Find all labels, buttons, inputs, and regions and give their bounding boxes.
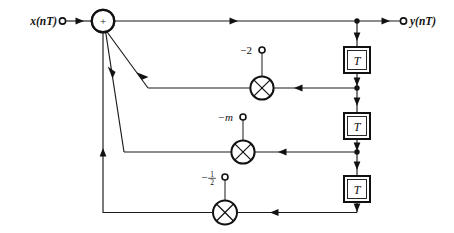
signal-flow-diagram: T T: [0, 0, 454, 233]
diagram-canvas: T T: [0, 0, 454, 233]
output-terminal-circle: [400, 18, 406, 24]
forward-rail-arrowhead: [230, 18, 239, 25]
delay-block-3: T: [344, 176, 370, 202]
multiplier-3-coef-numerator: 1: [210, 170, 214, 179]
delay-block-2: T: [344, 113, 370, 139]
multiplier-3: [213, 201, 237, 225]
multiplier-2: [231, 140, 254, 163]
forward-path: [114, 18, 406, 25]
input-terminal-circle: [59, 18, 65, 24]
branch-2-arrowhead: [278, 149, 287, 156]
branch-1-diagonal-arrowhead: [137, 72, 149, 80]
delay-chain-arrow-2: [354, 78, 361, 87]
delay-chain-arrow-5: [354, 162, 361, 171]
coefficient-branch-2: −m: [106, 31, 358, 164]
branch-3-arrowhead: [270, 209, 279, 216]
multiplier-3-coef-terminal: [222, 174, 228, 180]
multiplier-3-coef-label: − 1 2: [201, 170, 216, 188]
input-branch: [59, 18, 92, 25]
multiplier-1-coef-terminal: [259, 47, 265, 53]
output-signal-label: y(nT): [408, 15, 436, 28]
branch-1-arrowhead: [294, 85, 303, 92]
multiplier-3-coef-denominator: 2: [210, 178, 214, 187]
branch-2-diagonal: [106, 31, 125, 152]
summer-plus-symbol: +: [92, 10, 114, 32]
delay-chain: T T: [344, 21, 370, 213]
multiplier-1-coef-label: −2: [240, 44, 252, 56]
coefficient-branch-3: − 1 2: [100, 33, 357, 225]
delay-block-1: T: [344, 47, 370, 73]
output-arrowhead: [382, 18, 391, 25]
input-arrowhead: [76, 18, 85, 25]
summer-plus-label: +: [100, 15, 106, 27]
delay-chain-arrow-1: [354, 33, 361, 42]
coefficient-branch-1: −2: [106, 31, 357, 100]
branch-1-diagonal: [106, 31, 148, 89]
input-signal-label: x(nT): [29, 15, 57, 28]
multiplier-2-coef-terminal: [240, 114, 246, 120]
multiplier-3-coef-sign: −: [201, 171, 207, 183]
delay-chain-arrow-3: [354, 98, 361, 107]
delay-chain-arrow-6: [354, 204, 361, 213]
multiplier-1: [250, 76, 273, 99]
multiplier-2-coef-label: −m: [218, 111, 233, 123]
branch-3-return-arrowhead: [100, 148, 107, 157]
